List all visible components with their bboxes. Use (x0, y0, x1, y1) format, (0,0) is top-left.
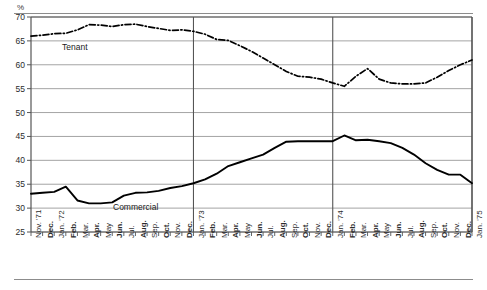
x-axis-tick: Sep. (150, 222, 159, 238)
y-axis-tick: 30 (3, 203, 25, 213)
x-axis-tick: Jan. '74 (336, 210, 345, 238)
x-axis-tick: Oct. (301, 222, 310, 238)
x-axis-tick: Feb. (69, 222, 78, 238)
x-axis-tick: Mar. (220, 222, 229, 238)
x-axis-tick: Aug. (139, 220, 148, 238)
y-axis-tick: 25 (3, 227, 25, 237)
x-axis-tick: Aug. (278, 220, 287, 238)
x-axis-tick: Jul. (266, 226, 275, 238)
x-axis-tick: Nov. '71 (34, 209, 43, 238)
series-label-tenant: Tenant (62, 42, 88, 52)
y-axis-tick: 35 (3, 179, 25, 189)
x-axis-tick: May (382, 223, 391, 238)
x-axis-tick: Apr. (371, 222, 380, 238)
x-axis-tick: Nov. (313, 222, 322, 238)
x-axis-tick: Jun. (394, 222, 403, 238)
x-axis-tick: Nov. (173, 222, 182, 238)
x-axis-tick: Feb. (208, 222, 217, 238)
x-axis-tick: Oct. (162, 222, 171, 238)
x-axis-tick: Apr. (231, 222, 240, 238)
x-axis-tick: Oct. (440, 222, 449, 238)
x-axis-tick: May (243, 223, 252, 238)
x-axis-tick: Jan. '75 (475, 210, 484, 238)
x-axis-tick: Dec. (185, 221, 194, 238)
y-axis-tick: 70 (3, 12, 25, 22)
x-axis-tick: Nov. (452, 222, 461, 238)
y-axis-tick: 40 (3, 155, 25, 165)
x-axis-tick: Dec. (46, 221, 55, 238)
x-axis-tick: Aug. (417, 220, 426, 238)
x-axis-tick: May (104, 223, 113, 238)
x-axis-tick: Jun. (255, 222, 264, 238)
x-axis-tick: Mar. (81, 222, 90, 238)
y-axis-tick: 65 (3, 36, 25, 46)
y-axis-tick: 60 (3, 60, 25, 70)
y-axis-tick: 55 (3, 84, 25, 94)
x-axis-tick: Dec. (464, 221, 473, 238)
x-axis-tick: Feb. (348, 222, 357, 238)
x-axis-tick: Apr. (92, 222, 101, 238)
x-axis-tick: Jan. '72 (57, 210, 66, 238)
x-axis-tick: Sep. (290, 222, 299, 238)
x-axis-tick: Jul. (406, 226, 415, 238)
chart-container: % 25303540455055606570 Nov. '71Dec.Jan. … (0, 0, 487, 290)
y-axis-tick: 50 (3, 108, 25, 118)
x-axis-tick: Jun. (115, 222, 124, 238)
x-axis-tick: Jan. '73 (197, 210, 206, 238)
x-axis-tick: Jul. (127, 226, 136, 238)
series-label-commercial: Commercial (113, 202, 158, 212)
y-axis-tick: 45 (3, 131, 25, 141)
x-axis-tick: Mar. (359, 222, 368, 238)
x-axis-tick: Sep. (429, 222, 438, 238)
x-axis-tick: Dec. (324, 221, 333, 238)
